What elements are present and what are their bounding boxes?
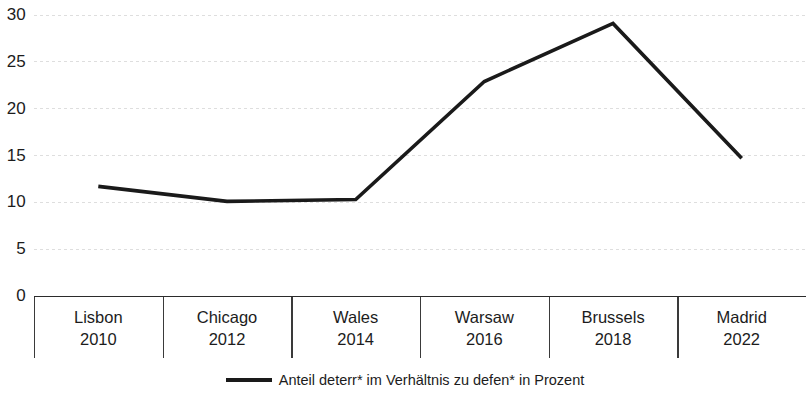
x-axis-category-cell: Wales2014 <box>291 297 420 358</box>
x-axis-category-year: 2016 <box>466 328 503 350</box>
x-axis-category-year: 2022 <box>723 328 760 350</box>
x-axis-categories: Lisbon2010Chicago2012Wales2014Warsaw2016… <box>34 296 806 358</box>
x-axis-category-cell: Madrid2022 <box>677 297 806 358</box>
x-axis-category-name: Brussels <box>581 307 644 328</box>
y-axis-tick-label: 25 <box>0 53 26 70</box>
gridline <box>34 61 806 62</box>
y-axis-tick-label: 0 <box>0 287 26 304</box>
x-axis-category-cell: Lisbon2010 <box>34 297 163 358</box>
legend-label: Anteil deterr* im Verhältnis zu defen* i… <box>279 372 584 388</box>
y-axis-tick-label: 20 <box>0 100 26 117</box>
gridline <box>34 15 806 16</box>
x-axis-category-year: 2014 <box>337 328 374 350</box>
legend-line-swatch-icon <box>226 378 272 381</box>
gridline <box>34 202 806 203</box>
x-axis-category-year: 2010 <box>80 328 117 350</box>
x-axis-category-name: Wales <box>333 307 378 328</box>
x-axis-category-name: Lisbon <box>74 307 123 328</box>
y-axis-tick-label: 5 <box>0 240 26 257</box>
gridline <box>34 108 806 109</box>
data-series-line <box>98 23 741 201</box>
x-axis-category-cell: Chicago2012 <box>163 297 292 358</box>
x-axis-category-cell: Warsaw2016 <box>420 297 549 358</box>
x-axis-category-name: Warsaw <box>455 307 514 328</box>
chart-legend: Anteil deterr* im Verhältnis zu defen* i… <box>0 372 810 388</box>
x-axis-category-name: Madrid <box>716 307 766 328</box>
x-axis-category-year: 2012 <box>209 328 246 350</box>
x-axis-category-year: 2018 <box>595 328 632 350</box>
line-chart: 302520151050 Lisbon2010Chicago2012Wales2… <box>0 0 810 397</box>
x-axis-category-cell: Brussels2018 <box>549 297 678 358</box>
gridline <box>34 155 806 156</box>
y-axis-tick-label: 30 <box>0 6 26 23</box>
gridline <box>34 249 806 250</box>
y-axis-tick-label: 10 <box>0 193 26 210</box>
x-axis-category-name: Chicago <box>197 307 258 328</box>
y-axis-tick-label: 15 <box>0 147 26 164</box>
